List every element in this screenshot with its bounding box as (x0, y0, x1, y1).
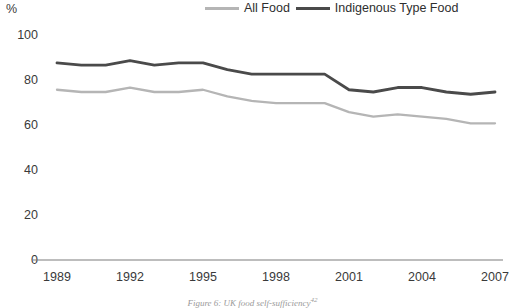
series-line-all-food (57, 88, 495, 124)
figure-caption-footnote: 42 (311, 296, 318, 304)
figure-caption-text: Figure 6: UK food self-sufficiency (187, 298, 310, 308)
figure-caption: Figure 6: UK food self-sufficiency42 (0, 296, 505, 308)
